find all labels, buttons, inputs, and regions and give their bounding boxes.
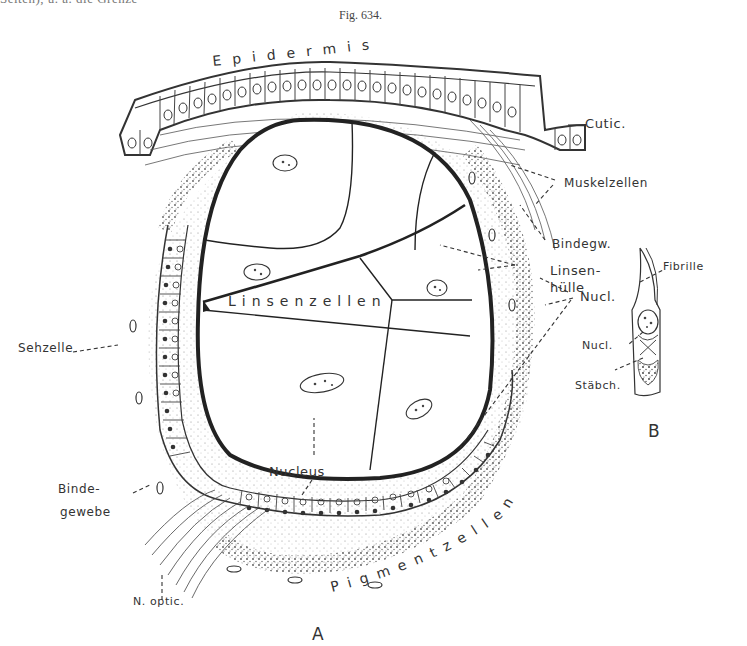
label-bindegw: Bindegw. (552, 237, 611, 251)
label-nucl-a: Nucl. (580, 289, 616, 304)
label-linsenhuelle-1: Linsen- (550, 263, 601, 278)
panel-label-b: B (648, 421, 660, 441)
label-n-optic: N. optic. (133, 595, 184, 608)
label-nucleus: Nucleus (269, 464, 325, 479)
label-bindegewebe-2: gewebe (60, 505, 111, 519)
panel-label-a: A (312, 624, 324, 644)
visual-cell-b (632, 248, 660, 396)
label-sehzelle: Sehzelle (18, 341, 73, 355)
label-nucl-b: Nucl. (582, 339, 613, 352)
label-muskelzellen: Muskelzellen (564, 176, 648, 190)
eye-section-diagram: Epidermis Cutic. Muskelzellen Bindegw. L… (0, 0, 747, 646)
label-staebch: Stäbch. (575, 379, 621, 392)
label-cutic: Cutic. (585, 116, 626, 131)
label-bindegewebe-1: Binde- (58, 482, 100, 496)
label-fibrille: Fibrille (663, 260, 704, 273)
label-linsenzellen: Linsenzellen (228, 293, 387, 309)
